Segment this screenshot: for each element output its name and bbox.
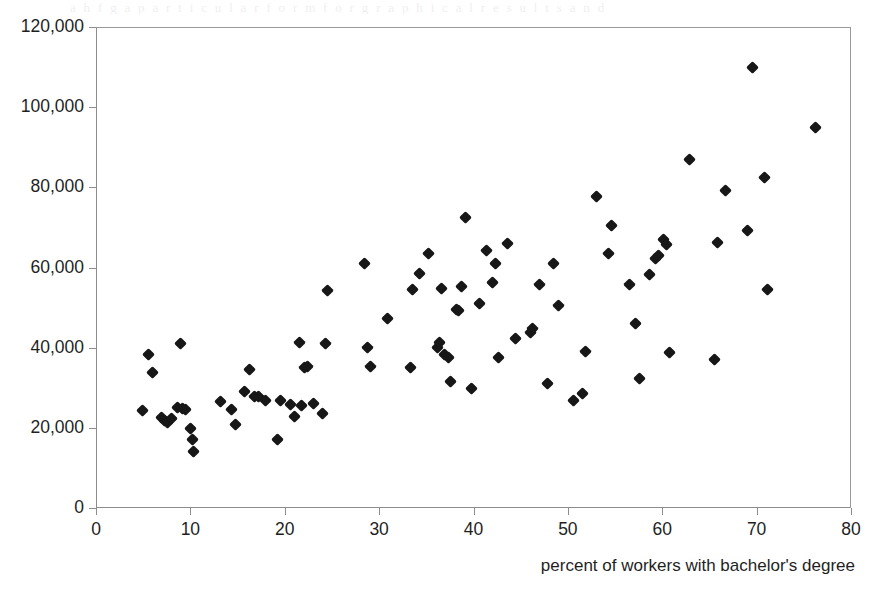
x-tick-mark — [285, 508, 286, 515]
y-tick-mark — [89, 187, 96, 188]
x-tick-mark — [474, 508, 475, 515]
y-tick-mark — [89, 508, 96, 509]
scan-ghost-text: a h f g a p a r t i c u l a r f o r m f … — [70, 0, 860, 14]
x-tick-mark — [568, 508, 569, 515]
plot-right-border — [850, 27, 851, 508]
x-tick-label: 30 — [349, 519, 409, 540]
x-tick-mark — [662, 508, 663, 515]
y-tick-mark — [89, 268, 96, 269]
x-tick-label: 50 — [538, 519, 598, 540]
x-tick-label: 10 — [160, 519, 220, 540]
y-tick-label: 120,000 — [0, 16, 84, 37]
y-tick-mark — [89, 428, 96, 429]
y-tick-label: 0 — [0, 497, 84, 518]
x-tick-label: 60 — [632, 519, 692, 540]
x-tick-mark — [190, 508, 191, 515]
y-tick-label: 60,000 — [0, 257, 84, 278]
x-tick-label: 70 — [727, 519, 787, 540]
x-tick-label: 80 — [821, 519, 873, 540]
y-tick-mark — [89, 27, 96, 28]
x-tick-label: 40 — [444, 519, 504, 540]
y-tick-label: 40,000 — [0, 337, 84, 358]
x-tick-mark — [851, 508, 852, 515]
y-tick-mark — [89, 107, 96, 108]
x-axis-title: percent of workers with bachelor's degre… — [0, 556, 855, 576]
x-tick-label: 20 — [255, 519, 315, 540]
x-tick-label: 0 — [66, 519, 126, 540]
y-tick-mark — [89, 348, 96, 349]
y-tick-label: 100,000 — [0, 96, 84, 117]
x-tick-mark — [757, 508, 758, 515]
x-tick-mark — [379, 508, 380, 515]
y-tick-label: 20,000 — [0, 417, 84, 438]
plot-top-border — [96, 27, 851, 28]
plot-frame — [96, 27, 851, 508]
scatter-plot-figure: a h f g a p a r t i c u l a r f o r m f … — [0, 0, 873, 592]
y-tick-label: 80,000 — [0, 176, 84, 197]
x-tick-mark — [96, 508, 97, 515]
